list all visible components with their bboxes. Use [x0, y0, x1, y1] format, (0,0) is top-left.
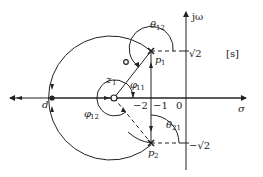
svg-text:21: 21: [172, 124, 181, 132]
svg-text:12: 12: [90, 113, 99, 121]
root-locus-diagram: jω σ [s] √2 −√2 −2 −1 0 d z 1 p 1 p 2 θ …: [0, 0, 263, 177]
p2-label: p 2: [148, 147, 158, 160]
real-axis-label: σ: [238, 103, 246, 114]
tick-zero: 0: [176, 100, 182, 111]
small-circle-marker: [124, 60, 129, 65]
p1-label: p 1: [155, 54, 165, 67]
theta12-label: θ 12: [150, 19, 165, 32]
phi12-label: φ 12: [84, 108, 99, 121]
imag-axis-label: jω: [191, 11, 203, 22]
d-breakaway-point: [49, 95, 54, 100]
svg-text:1: 1: [112, 79, 116, 87]
d-label: d: [42, 99, 48, 110]
tick-minus-one: −1: [153, 100, 168, 111]
z1-p1-line: [114, 51, 151, 98]
arc-arrow-upper: [50, 84, 54, 90]
svg-text:1: 1: [161, 59, 165, 67]
locus-arrow-to-zero: [104, 96, 110, 100]
locus-arrow-left: [16, 96, 22, 100]
svg-text:2: 2: [154, 152, 158, 160]
p1-arrow: [149, 62, 153, 68]
phi11-label: φ 11: [130, 79, 145, 92]
svg-text:z: z: [105, 74, 112, 85]
z1-zero-marker: [111, 95, 117, 101]
svg-text:12: 12: [156, 24, 165, 32]
p2-arrow: [149, 126, 153, 132]
plane-label: [s]: [226, 48, 239, 59]
arc-arrow-lower: [50, 106, 54, 112]
tick-minus-root2: −√2: [189, 140, 210, 151]
svg-text:11: 11: [136, 84, 145, 92]
theta21-label: θ 21: [166, 119, 181, 132]
tick-minus-two: −2: [133, 100, 148, 111]
z1-label: z 1: [105, 74, 116, 87]
tick-root2: √2: [189, 48, 202, 59]
